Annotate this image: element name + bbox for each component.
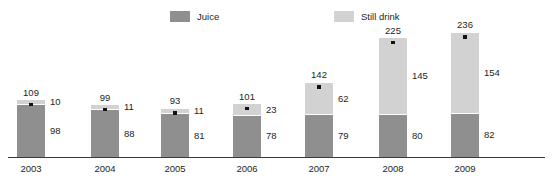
- segment-value-label-juice: 88: [124, 129, 135, 139]
- total-value-label: 93: [150, 96, 200, 106]
- total-value-label: 225: [368, 26, 418, 36]
- bar-stack: [233, 104, 261, 157]
- bar-segment-juice: [305, 115, 333, 157]
- bar-segment-juice: [451, 114, 479, 157]
- plot-area: 1091098200399118820049311812005101237820…: [0, 0, 553, 184]
- bar-group: 10123782006: [233, 0, 261, 184]
- bar-stack: [451, 33, 479, 157]
- bar-segment-still-drink: [379, 38, 407, 114]
- total-value-marker: [245, 107, 249, 111]
- total-value-marker: [173, 111, 177, 115]
- bar-segment-juice: [17, 105, 45, 157]
- x-axis-category-label: 2008: [363, 163, 423, 174]
- bar-group: 14262792007: [305, 0, 333, 184]
- total-value-marker: [317, 85, 321, 89]
- total-value-marker: [463, 35, 467, 39]
- segment-value-label-still-drink: 11: [124, 102, 134, 112]
- bar-segment-still-drink: [451, 33, 479, 114]
- total-value-label: 99: [80, 93, 130, 103]
- x-axis-category-label: 2007: [289, 163, 349, 174]
- bar-group: 10910982003: [17, 0, 45, 184]
- bar-group: 9911882004: [91, 0, 119, 184]
- bar-stack: [305, 83, 333, 157]
- bar-stack: [17, 100, 45, 157]
- segment-value-label-still-drink: 145: [412, 71, 428, 81]
- bar-segment-juice: [161, 114, 189, 157]
- segment-value-label-still-drink: 154: [484, 68, 500, 78]
- segment-value-label-still-drink: 23: [266, 105, 277, 115]
- bar-stack: [161, 109, 189, 157]
- segment-value-label-still-drink: 10: [50, 97, 61, 107]
- segment-value-label-juice: 82: [484, 130, 495, 140]
- segment-value-label-juice: 81: [194, 131, 205, 141]
- bar-stack: [379, 38, 407, 157]
- segment-value-label-still-drink: 62: [338, 94, 349, 104]
- segment-value-label-juice: 79: [338, 131, 349, 141]
- x-axis-category-label: 2003: [1, 163, 61, 174]
- total-value-label: 142: [294, 70, 344, 80]
- segment-value-label-still-drink: 11: [194, 106, 204, 116]
- stacked-bar-chart: Juice Still drink 1091098200399118820049…: [0, 0, 553, 184]
- total-value-label: 236: [440, 20, 490, 30]
- segment-value-label-juice: 78: [266, 131, 277, 141]
- total-value-marker: [391, 41, 395, 45]
- x-axis-category-label: 2009: [435, 163, 495, 174]
- bar-segment-juice: [91, 110, 119, 157]
- bar-group: 9311812005: [161, 0, 189, 184]
- bar-stack: [91, 105, 119, 157]
- bar-segment-juice: [379, 115, 407, 157]
- x-axis-category-label: 2006: [217, 163, 277, 174]
- total-value-label: 101: [222, 92, 272, 102]
- bar-group: 225145802008: [379, 0, 407, 184]
- x-axis-category-label: 2004: [75, 163, 135, 174]
- total-value-label: 109: [6, 88, 56, 98]
- total-value-marker: [29, 103, 33, 107]
- bar-segment-juice: [233, 116, 261, 157]
- x-axis-category-label: 2005: [145, 163, 205, 174]
- segment-value-label-juice: 98: [50, 126, 61, 136]
- bar-group: 236154822009: [451, 0, 479, 184]
- total-value-marker: [103, 108, 107, 112]
- segment-value-label-juice: 80: [412, 131, 423, 141]
